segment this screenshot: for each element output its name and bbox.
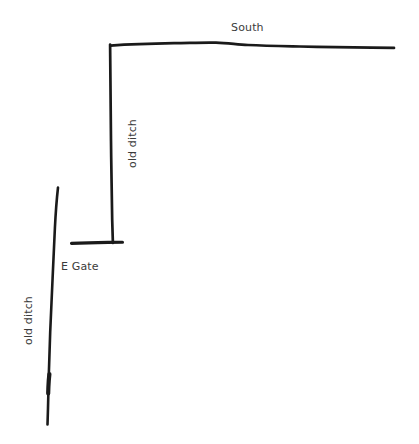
- centre-old-ditch-stroke: [110, 45, 113, 243]
- label-e-gate: E Gate: [61, 261, 99, 272]
- label-old-ditch-left: old ditch: [23, 296, 34, 345]
- left-old-ditch-ink-blot: [48, 374, 49, 394]
- label-old-ditch-centre: old ditch: [127, 119, 138, 168]
- e-gate-crossbar-stroke: [72, 242, 123, 243]
- sketch-map-drawing: [0, 0, 419, 444]
- south-boundary-ditch-stroke: [111, 43, 395, 48]
- sketch-map-figure: South E Gate old ditch old ditch: [0, 0, 419, 444]
- label-south: South: [231, 22, 264, 33]
